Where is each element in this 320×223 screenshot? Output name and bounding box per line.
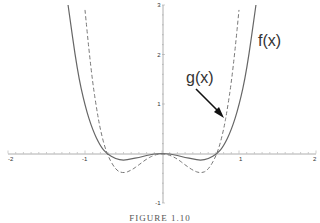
series-f-line <box>68 5 256 160</box>
annotation-f: f(x) <box>258 32 281 49</box>
y-tick-label: 1 <box>157 101 161 107</box>
x-tick-label: 1 <box>239 156 243 162</box>
chart: -2-112-1123 f(x) g(x) <box>0 0 320 223</box>
y-tick-label: -1 <box>155 200 161 206</box>
x-tick-label: 2 <box>313 156 317 162</box>
figure-caption: FIGURE 1.10 <box>0 213 320 223</box>
y-tick-label: 2 <box>157 52 161 58</box>
annotation-g: g(x) <box>186 69 214 86</box>
annotation-arrow <box>196 89 224 118</box>
y-tick-label: 3 <box>157 2 161 8</box>
series-g-line <box>85 10 239 173</box>
x-tick-label: -1 <box>82 156 88 162</box>
x-tick-label: -2 <box>8 156 14 162</box>
